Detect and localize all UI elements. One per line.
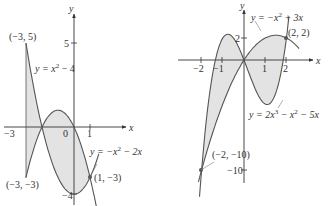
label-point-neg2-neg10: (−2, −10) — [212, 149, 250, 161]
left-x-label: x — [128, 122, 134, 133]
right-xtick-2: 2 — [283, 63, 288, 74]
right-x-label: x — [315, 55, 321, 66]
left-xtick-neg3: −3 — [4, 128, 15, 139]
right-y-label: y — [239, 0, 245, 11]
label-curve-2x3-minus-x2-minus-5x: y = 2x3 − x2 − 5x — [248, 108, 320, 120]
label-curve-x2-minus-4: y = x2 − 4 — [34, 62, 75, 74]
label-point-neg3-5: (−3, 5) — [9, 31, 36, 43]
right-ytick-2: 2 — [235, 33, 240, 44]
right-xtick-neg1: −1 — [213, 63, 224, 74]
label-curve-neg-x2-plus-3x: y = −x2 + 3x — [250, 11, 304, 23]
figure: −3 0 1 5 −4 x y (−3, 5) (−3, −3) (1, −3)… — [0, 0, 330, 206]
left-y-label: y — [68, 3, 74, 14]
label-point-1-neg3: (1, −3) — [94, 172, 121, 184]
left-xtick-0: 0 — [63, 128, 68, 139]
right-xtick-neg2: −2 — [193, 63, 204, 74]
right-ytick-neg10: −10 — [227, 165, 243, 176]
left-graph: −3 0 1 5 −4 x y (−3, 5) (−3, −3) (1, −3)… — [4, 3, 143, 206]
leader-line — [278, 100, 283, 108]
right-graph: −2 −1 1 2 2 −10 x y (2, 2) (−2, −10) y =… — [178, 0, 321, 197]
label-point-neg3-neg3: (−3, −3) — [6, 179, 39, 191]
label-point-2-2: (2, 2) — [288, 27, 310, 39]
right-xtick-1: 1 — [262, 63, 267, 74]
left-ytick-neg4: −4 — [62, 190, 73, 201]
left-ytick-5: 5 — [64, 38, 69, 49]
left-xtick-1: 1 — [87, 128, 92, 139]
label-curve-neg-x2-minus-2x: y = −x2 − 2x — [89, 145, 143, 157]
